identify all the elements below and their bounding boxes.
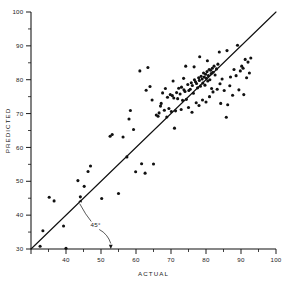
y-tick-label: 50 [16,177,24,184]
x-tick-label: 90 [237,256,245,263]
data-point [204,101,207,104]
data-point [223,89,226,92]
data-point [237,88,240,91]
data-point [213,65,216,68]
data-point [100,197,103,200]
y-tick-label: 30 [16,245,24,252]
data-point [190,111,193,114]
data-point [231,94,234,97]
data-point [208,95,211,98]
data-point [76,179,79,182]
data-point [175,91,178,94]
data-point [236,44,239,47]
data-point [210,87,213,90]
data-point [193,65,196,68]
data-point [159,105,162,108]
data-point [245,76,248,79]
y-axis: 30405060708090100 [12,8,31,252]
data-point [206,59,209,62]
data-point [167,107,170,110]
data-point [228,84,231,87]
data-point [226,103,229,106]
data-point [174,109,177,112]
data-point [185,98,188,101]
data-point [176,97,179,100]
annotation-leader-to-axis [99,229,111,243]
data-point [127,117,130,120]
data-point [198,79,201,82]
data-point [225,49,228,52]
annotation-leader-to-line [80,204,92,222]
data-point [64,247,67,250]
data-point [172,80,175,83]
data-point [140,162,143,165]
data-point [166,96,169,99]
data-point [117,192,120,195]
data-point [163,109,166,112]
x-axis-title: ACTUAL [138,270,169,277]
data-point [125,155,128,158]
data-point [216,63,219,66]
data-point [199,85,202,88]
data-point [41,229,44,232]
data-point [218,50,221,53]
data-point [242,93,245,96]
data-point [157,115,160,118]
y-tick-label: 40 [16,211,24,218]
data-point [180,108,183,111]
scatter-chart-figure: 30405060708090100 405060708090100 45° AC… [0,0,289,288]
x-tick-label: 40 [62,256,70,263]
y-axis-title: PREDICTED [4,108,11,154]
data-point [172,96,175,99]
data-point [183,90,186,93]
data-point [83,185,86,188]
data-point [152,162,155,165]
x-tick-label: 80 [202,256,210,263]
data-point [221,77,224,80]
data-point [235,74,238,77]
data-point [161,91,164,94]
data-point [132,128,135,131]
x-tick-label: 100 [270,256,281,263]
data-point [205,77,208,80]
axis-titles: ACTUALPREDICTED [4,108,169,277]
data-point [204,73,207,76]
reference-line-45deg [31,12,276,249]
data-point [146,66,149,69]
data-point [242,67,245,70]
data-point [208,78,211,81]
data-point [198,55,201,58]
data-point [225,116,228,119]
data-point [196,86,199,89]
data-point [214,73,217,76]
data-point [195,82,198,85]
data-point [200,75,203,78]
data-points [39,44,253,250]
data-point [177,87,180,90]
data-point [87,170,90,173]
x-tick-label: 50 [97,256,105,263]
data-point [189,88,192,91]
data-point [129,109,132,112]
data-point [211,71,214,74]
data-point [182,77,185,80]
data-point [195,101,198,104]
y-tick-label: 70 [16,110,24,117]
data-point [229,75,232,78]
data-point [215,67,218,70]
y-tick-label: 60 [16,144,24,151]
angle-annotation: 45° [78,200,112,250]
data-point [211,90,214,93]
data-point [186,83,189,86]
x-axis: 405060708090100 [31,249,282,263]
data-point [248,71,251,74]
annotation-arrowhead-axis [109,245,113,249]
data-point [232,68,235,71]
data-point [79,195,82,198]
data-point [158,111,161,114]
data-point [203,84,206,87]
data-point [190,81,193,84]
reference-line [31,12,276,249]
data-point [173,127,176,130]
data-point [216,88,219,91]
